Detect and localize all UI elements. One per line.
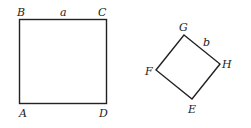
vertex-label-b: B [16,6,25,19]
square-abcd-outline [20,20,107,104]
vertex-label-e: E [187,103,196,116]
vertex-label-g: G [179,21,188,34]
vertex-label-h: H [221,58,232,71]
square-efgh: G b H F E [144,21,232,116]
vertex-label-c: C [98,6,107,19]
two-squares-diagram: B a C A D G b H F E [0,0,251,128]
vertex-label-d: D [98,107,108,120]
square-abcd: B a C A D [16,6,108,120]
square-efgh-outline [156,35,220,99]
vertex-label-a: A [18,107,27,120]
side-label-a: a [60,6,67,19]
side-label-b: b [203,36,210,49]
vertex-label-f: F [144,65,153,78]
